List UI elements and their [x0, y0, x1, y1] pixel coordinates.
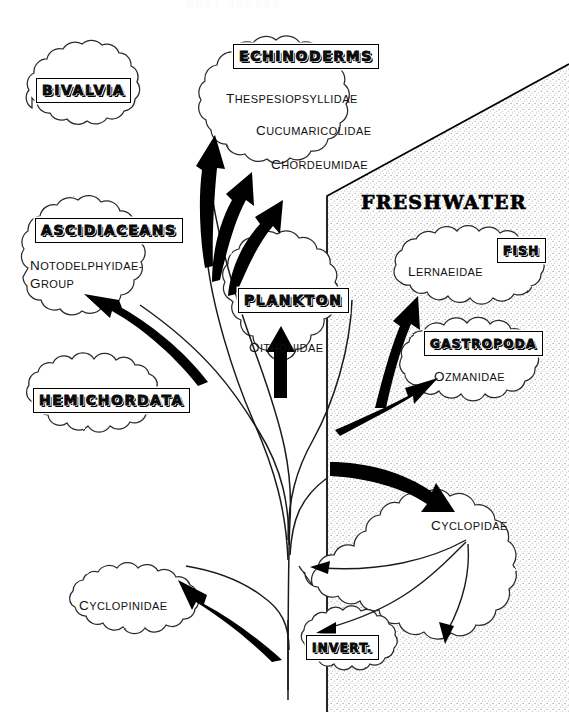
arrow-to-cyclopinidae [178, 580, 282, 662]
family-chordeumidae: CHORDEUMIDAE [271, 157, 368, 172]
header-hemichordata[interactable]: HEMICHORDATA [33, 388, 190, 413]
family-cyclopinidae: CYCLOPINIDAE [79, 598, 168, 613]
header-ascidiaceans[interactable]: ASCIDIACEANS [35, 218, 183, 243]
family-notodelphyidae-line1: NOTODELPHYIDAE- [30, 258, 143, 273]
region-label-freshwater: FRESHWATER [361, 191, 527, 213]
header-gastropoda-text: GASTROPODA [430, 338, 537, 350]
family-ozmanidae: OZMANIDAE [434, 369, 505, 384]
header-fish[interactable]: FISH [497, 238, 546, 263]
family-cucumaricolidae: CUCUMARICOLIDAE [256, 123, 371, 138]
diagram-canvas: HOST GROUPS BIVALVIA ECHINODERMS THESPES… [0, 0, 569, 712]
family-oithonidae: OITHONIDAE [249, 340, 323, 355]
bubble-ascidiaceans [21, 196, 145, 315]
header-plankton-text: PLANKTON [244, 293, 343, 307]
header-invert[interactable]: INVERT. [306, 635, 379, 660]
header-ascidiaceans-text: ASCIDIACEANS [41, 223, 177, 237]
family-thespesiopsyllidae: THESPESIOPSYLLIDAE [226, 91, 358, 106]
header-invert-text: INVERT. [312, 642, 373, 654]
header-plankton[interactable]: PLANKTON [238, 288, 349, 313]
page-title-faint: HOST GROUPS [186, 0, 281, 10]
header-gastropoda[interactable]: GASTROPODA [424, 331, 543, 356]
header-bivalvia[interactable]: BIVALVIA [36, 78, 131, 103]
header-echinoderms[interactable]: ECHINODERMS [233, 44, 379, 69]
family-lernaeidae: LERNAEIDAE [408, 264, 483, 279]
header-fish-text: FISH [503, 245, 540, 257]
header-echinoderms-text: ECHINODERMS [239, 49, 373, 63]
family-cyclopidae: CYCLOPIDAE [431, 518, 508, 533]
header-bivalvia-text: BIVALVIA [42, 83, 125, 97]
family-notodelphyidae-line2: GROUP [30, 276, 74, 291]
header-hemichordata-text: HEMICHORDATA [39, 393, 184, 407]
